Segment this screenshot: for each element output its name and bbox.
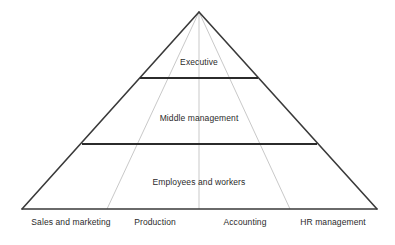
tier-label-executive: Executive (180, 57, 218, 67)
column-label-sales-and-marketing: Sales and marketing (31, 217, 110, 227)
column-label-accounting: Accounting (223, 217, 266, 227)
column-label-production: Production (134, 217, 176, 227)
organizational-pyramid-diagram: Executive Middle management Employees an… (0, 0, 395, 245)
tier-label-middle-management: Middle management (160, 113, 239, 123)
column-label-hr-management: HR management (300, 217, 366, 227)
tier-label-employees-and-workers: Employees and workers (153, 177, 246, 187)
